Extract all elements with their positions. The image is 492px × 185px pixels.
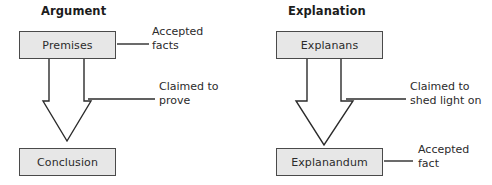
annotation-claimed-to-prove: Claimed to prove [159, 80, 219, 107]
node-explanans-label: Explanans [301, 39, 359, 52]
argument-block-arrow [43, 58, 91, 141]
annotation-claimed-to-prove-line2: prove [159, 94, 219, 108]
annotation-claimed-to-prove-line1: Claimed to [159, 80, 219, 94]
node-premises-label: Premises [42, 39, 92, 52]
annotation-claimed-to-shed-light-on: Claimed to shed light on [410, 80, 482, 107]
annotation-accepted-facts-line1: Accepted [152, 25, 203, 39]
panel-title-explanation: Explanation [288, 4, 366, 18]
annotation-accepted-facts-line2: facts [152, 39, 203, 53]
node-conclusion[interactable]: Conclusion [19, 148, 116, 176]
annotation-claimed-to-shed-light-on-line1: Claimed to [410, 80, 482, 94]
node-explanandum-label: Explanandum [291, 156, 368, 169]
annotation-accepted-fact: Accepted fact [418, 143, 469, 170]
panel-title-argument: Argument [41, 4, 106, 18]
diagram-canvas: Argument Premises Accepted facts Claimed… [0, 0, 492, 185]
annotation-accepted-fact-line1: Accepted [418, 143, 469, 157]
node-explanandum[interactable]: Explanandum [276, 148, 383, 176]
node-explanans[interactable]: Explanans [276, 31, 383, 59]
node-premises[interactable]: Premises [19, 31, 116, 59]
annotation-accepted-fact-line2: fact [418, 157, 469, 171]
node-conclusion-label: Conclusion [37, 156, 98, 169]
annotation-accepted-facts: Accepted facts [152, 25, 203, 52]
explanation-block-arrow [296, 58, 353, 145]
annotation-claimed-to-shed-light-on-line2: shed light on [410, 94, 482, 108]
